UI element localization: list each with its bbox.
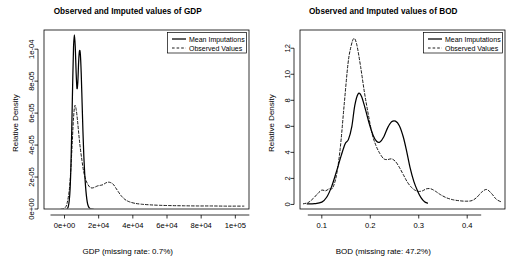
series-line-mean-imputations	[67, 35, 93, 209]
legend: Mean ImputationsObserved Values	[423, 33, 502, 54]
y-tick-label: 8e-05	[27, 71, 36, 90]
plot-area-gdp: 0e+002e+044e+046e+048e+041e+050e+002e-05…	[0, 0, 256, 262]
plot-frame	[44, 30, 249, 209]
legend-label: Mean Imputations	[189, 36, 245, 44]
y-tick-label: 6	[283, 124, 292, 128]
y-tick-label: 4e-05	[27, 135, 36, 154]
plot-frame	[300, 30, 505, 209]
legend-label: Observed Values	[189, 45, 243, 52]
x-tick-label: 2e+04	[88, 221, 109, 230]
x-tick-label: 0.1	[316, 221, 327, 230]
series-line-observed-values	[61, 105, 244, 209]
y-tick-label: 0	[283, 202, 292, 206]
x-tick-label: 1e+05	[225, 221, 246, 230]
legend-label: Mean Imputations	[445, 36, 501, 44]
y-tick-label: 10	[283, 70, 292, 78]
y-tick-label: 0e+00	[27, 198, 36, 219]
legend: Mean ImputationsObserved Values	[168, 33, 247, 54]
x-tick-label: 0e+00	[54, 221, 75, 230]
y-tick-label: 6e-05	[27, 103, 36, 122]
plot-area-bod: 0.10.20.30.4024681012Mean ImputationsObs…	[256, 0, 511, 262]
figure-container: Observed and Imputed values of GDP Relat…	[0, 0, 511, 262]
x-tick-label: 6e+04	[156, 221, 177, 230]
x-tick-label: 0.4	[461, 221, 472, 230]
x-tick-label: 0.3	[413, 221, 424, 230]
panel-gdp: Observed and Imputed values of GDP Relat…	[0, 0, 256, 262]
y-tick-label: 2	[283, 176, 292, 180]
x-axis-title-gdp: GDP (missing rate: 0.7%)	[0, 247, 256, 256]
y-tick-label: 1e-04	[27, 39, 36, 58]
y-tick-label: 4	[283, 150, 292, 154]
x-tick-label: 8e+04	[191, 221, 212, 230]
y-tick-label: 12	[283, 44, 292, 52]
panel-bod: Observed and Imputed values of BOD Relat…	[256, 0, 511, 262]
x-axis-title-bod: BOD (missing rate: 47.2%)	[256, 247, 511, 256]
y-tick-label: 8	[283, 98, 292, 102]
y-tick-label: 2e-05	[27, 167, 36, 186]
x-tick-label: 0.2	[364, 221, 375, 230]
series-line-observed-values	[303, 38, 501, 203]
legend-label: Observed Values	[445, 45, 499, 52]
x-tick-label: 4e+04	[122, 221, 143, 230]
